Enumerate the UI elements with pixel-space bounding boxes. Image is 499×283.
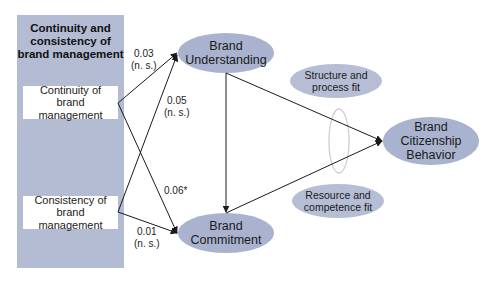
- coef-continuity-understanding: 0.03 (n. s.): [131, 48, 157, 72]
- structure-fit-line-2: process fit: [304, 81, 367, 93]
- coef-value: 0.03: [131, 48, 157, 60]
- brand-citizenship-behavior-label: Brand Citizenship Behavior: [383, 117, 479, 165]
- brand-understanding-line-2: Understanding: [185, 53, 266, 67]
- coef-consistency-understanding: 0.05 (n. s.): [164, 95, 190, 119]
- path-continuity-to-commitment: [118, 103, 177, 233]
- brand-commitment-line-1: Brand: [191, 219, 262, 233]
- coef-value: 0.06*: [164, 185, 187, 197]
- citizenship-line-1: Brand: [400, 120, 461, 134]
- resource-competence-fit-label: Resource and competence fit: [292, 184, 384, 218]
- resource-fit-line-2: competence fit: [304, 201, 372, 213]
- coef-significance: (n. s.): [134, 238, 160, 250]
- brand-understanding-label: Brand Understanding: [178, 33, 274, 73]
- coef-value: 0.01: [134, 226, 160, 238]
- brand-commitment-label: Brand Commitment: [178, 213, 274, 253]
- coef-consistency-commitment: 0.01 (n. s.): [134, 226, 160, 250]
- coef-value: 0.05: [164, 95, 190, 107]
- moderator-ring: [329, 109, 349, 173]
- citizenship-line-3: Behavior: [400, 148, 461, 162]
- citizenship-line-2: Citizenship: [400, 134, 461, 148]
- coef-significance: (n. s.): [131, 60, 157, 72]
- structure-process-fit-label: Structure and process fit: [290, 64, 382, 98]
- brand-commitment-line-2: Commitment: [191, 233, 262, 247]
- structure-fit-line-1: Structure and: [304, 69, 367, 81]
- coef-continuity-commitment: 0.06*: [164, 185, 187, 197]
- resource-fit-line-1: Resource and: [304, 189, 372, 201]
- coef-significance: (n. s.): [164, 107, 190, 119]
- brand-understanding-line-1: Brand: [185, 39, 266, 53]
